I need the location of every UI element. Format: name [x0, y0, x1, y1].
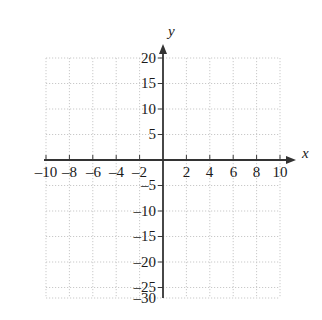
coordinate-plane-figure: y x 20 15 10 5 –5 –10 –15 –20 –25 –30 –1… [0, 0, 322, 320]
y-tick-label-neg20: –20 [108, 255, 156, 270]
y-tick-label-neg30: –30 [108, 291, 156, 306]
y-tick-label-20: 20 [112, 51, 156, 66]
x-tick-label-neg2: –2 [124, 165, 155, 180]
coordinate-grid-canvas [0, 0, 322, 320]
y-axis-line [159, 44, 167, 298]
y-tick-label-neg15: –15 [108, 229, 156, 244]
x-tick-label-10: 10 [265, 165, 295, 180]
x-axis-label: x [302, 146, 309, 161]
x-axis-line [44, 156, 296, 164]
y-tick-label-5: 5 [112, 127, 156, 142]
x-tick-label-6: 6 [221, 165, 246, 180]
y-tick-label-neg10: –10 [108, 204, 156, 219]
y-tick-label-15: 15 [112, 76, 156, 91]
y-tick-label-10: 10 [112, 102, 156, 117]
x-tick-label-4: 4 [197, 165, 222, 180]
y-tick-label-neg5: –5 [108, 178, 156, 193]
x-tick-label-2: 2 [174, 165, 199, 180]
y-axis-label: y [168, 24, 175, 39]
